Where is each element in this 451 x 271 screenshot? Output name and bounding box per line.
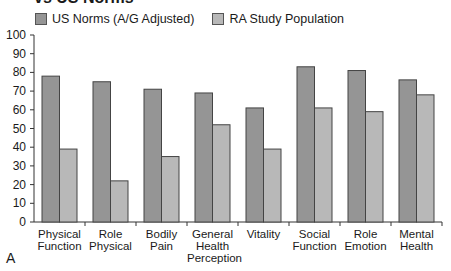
panel-label: A [6, 250, 15, 266]
y-tick-label: 100 [0, 28, 26, 42]
y-tick-label: 0 [0, 215, 26, 229]
bar-ra-study [60, 149, 78, 222]
bar-ra-study [111, 181, 129, 222]
bar-us-norms [348, 71, 366, 222]
y-tick-label: 40 [0, 140, 26, 154]
bar-us-norms [297, 67, 315, 222]
y-tick-label: 80 [0, 65, 26, 79]
x-category-label: MentalHealth [391, 228, 442, 252]
bar-ra-study [417, 95, 435, 222]
y-tick-label: 50 [0, 122, 26, 136]
bar-ra-study [264, 149, 282, 222]
bar-ra-study [213, 125, 231, 222]
x-category-label: Vitality [238, 228, 289, 240]
y-tick-label: 10 [0, 196, 26, 210]
bar-us-norms [93, 82, 111, 222]
y-tick-label: 30 [0, 159, 26, 173]
x-category-label: GeneralHealthPerception [187, 228, 238, 264]
bar-us-norms [399, 80, 417, 222]
y-tick-label: 70 [0, 84, 26, 98]
y-tick-label: 60 [0, 103, 26, 117]
bar-us-norms [144, 89, 162, 222]
bar-ra-study [315, 108, 333, 222]
bar-ra-study [366, 112, 384, 222]
bar-us-norms [42, 76, 60, 222]
x-category-label: SocialFunction [289, 228, 340, 252]
x-category-label: BodilyPain [136, 228, 187, 252]
bar-us-norms [246, 108, 264, 222]
x-category-label: RoleEmotion [340, 228, 391, 252]
y-tick-label: 90 [0, 47, 26, 61]
y-tick-label: 20 [0, 178, 26, 192]
x-category-label: RolePhysical [85, 228, 136, 252]
x-category-label: PhysicalFunction [34, 228, 85, 252]
bar-us-norms [195, 93, 213, 222]
bar-ra-study [162, 157, 180, 222]
